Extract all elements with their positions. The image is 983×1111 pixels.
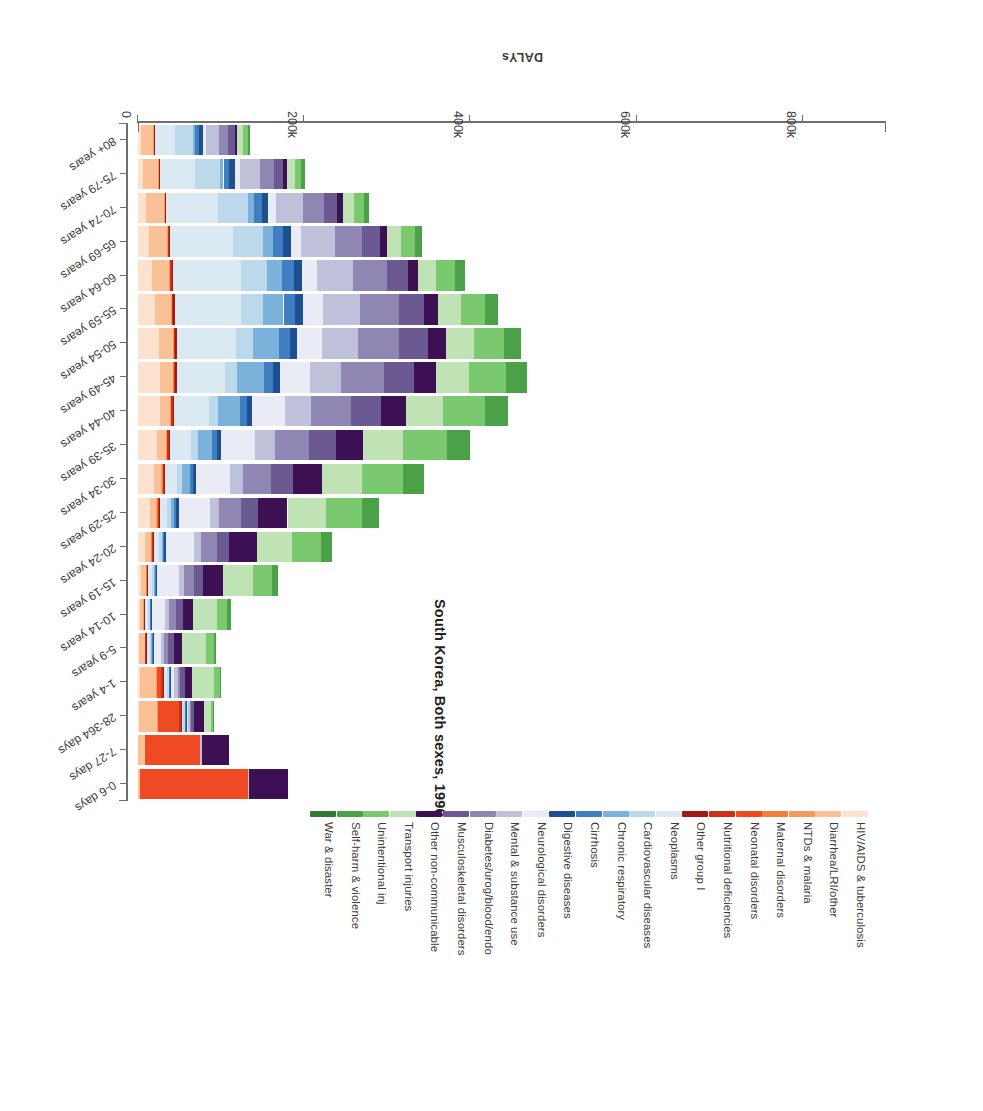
bar-segment[interactable] <box>273 226 283 257</box>
bar-segment[interactable] <box>182 464 189 495</box>
bar-segment[interactable] <box>219 498 241 529</box>
bar-row[interactable] <box>138 125 886 156</box>
bar-segment[interactable] <box>233 226 263 257</box>
bar-row[interactable] <box>138 667 886 698</box>
bar-segment[interactable] <box>177 328 237 359</box>
bar-segment[interactable] <box>283 226 290 257</box>
bar-segment[interactable] <box>268 193 275 224</box>
bar-segment[interactable] <box>185 667 192 698</box>
bar-row[interactable] <box>138 362 886 393</box>
bar-segment[interactable] <box>175 294 241 325</box>
bar-segment[interactable] <box>138 396 160 427</box>
bar-row[interactable] <box>138 532 886 563</box>
bar-segment[interactable] <box>184 565 195 596</box>
bar-segment[interactable] <box>138 294 155 325</box>
bar-segment[interactable] <box>293 464 322 495</box>
bar-segment[interactable] <box>203 565 223 596</box>
bar-segment[interactable] <box>303 193 324 224</box>
bar-row[interactable] <box>138 633 886 664</box>
bar-segment[interactable] <box>364 193 369 224</box>
bar-segment[interactable] <box>241 498 258 529</box>
bar-segment[interactable] <box>248 125 250 156</box>
bar-row[interactable] <box>138 735 886 766</box>
bar-segment[interactable] <box>173 260 241 291</box>
bar-segment[interactable] <box>143 159 159 190</box>
bar-segment[interactable] <box>223 565 253 596</box>
bar-row[interactable] <box>138 159 886 190</box>
bar-row[interactable] <box>138 565 886 596</box>
bar-row[interactable] <box>138 599 886 630</box>
bar-row[interactable] <box>138 464 886 495</box>
bar-segment[interactable] <box>195 159 220 190</box>
bar-segment[interactable] <box>198 430 212 461</box>
bar-segment[interactable] <box>469 362 506 393</box>
bar-segment[interactable] <box>324 193 337 224</box>
bar-segment[interactable] <box>175 125 193 156</box>
bar-segment[interactable] <box>485 396 508 427</box>
bar-segment[interactable] <box>301 226 334 257</box>
bar-segment[interactable] <box>219 125 228 156</box>
bar-segment[interactable] <box>297 328 322 359</box>
bar-segment[interactable] <box>303 294 323 325</box>
bar-segment[interactable] <box>138 430 157 461</box>
bar-segment[interactable] <box>160 498 167 529</box>
bar-segment[interactable] <box>428 328 445 359</box>
bar-segment[interactable] <box>194 532 201 563</box>
bar-row[interactable] <box>138 769 886 800</box>
bar-segment[interactable] <box>336 430 363 461</box>
bar-row[interactable] <box>138 701 886 732</box>
bar-segment[interactable] <box>287 159 295 190</box>
bar-segment[interactable] <box>157 565 179 596</box>
bar-segment[interactable] <box>182 633 207 664</box>
bar-segment[interactable] <box>436 362 469 393</box>
bar-segment[interactable] <box>267 260 282 291</box>
bar-row[interactable] <box>138 328 886 359</box>
bar-segment[interactable] <box>258 498 288 529</box>
bar-segment[interactable] <box>455 260 465 291</box>
bar-segment[interactable] <box>155 125 175 156</box>
bar-segment[interactable] <box>237 362 264 393</box>
bar-segment[interactable] <box>271 464 293 495</box>
bar-segment[interactable] <box>157 430 166 461</box>
bar-segment[interactable] <box>282 260 294 291</box>
bar-segment[interactable] <box>360 294 398 325</box>
bar-segment[interactable] <box>447 430 470 461</box>
bar-segment[interactable] <box>138 735 145 766</box>
bar-segment[interactable] <box>362 464 404 495</box>
bar-segment[interactable] <box>387 226 401 257</box>
bar-segment[interactable] <box>213 701 214 732</box>
bar-row[interactable] <box>138 430 886 461</box>
bar-segment[interactable] <box>149 226 167 257</box>
bar-segment[interactable] <box>210 498 219 529</box>
bar-segment[interactable] <box>139 701 157 732</box>
bar-segment[interactable] <box>461 294 485 325</box>
bar-segment[interactable] <box>363 430 403 461</box>
bar-segment[interactable] <box>263 294 284 325</box>
bar-segment[interactable] <box>177 362 225 393</box>
bar-segment[interactable] <box>506 362 527 393</box>
bar-segment[interactable] <box>504 328 521 359</box>
bar-segment[interactable] <box>170 430 192 461</box>
bar-row[interactable] <box>138 294 886 325</box>
bar-segment[interactable] <box>387 260 409 291</box>
bar-segment[interactable] <box>138 464 154 495</box>
bar-segment[interactable] <box>260 159 274 190</box>
bar-segment[interactable] <box>255 430 274 461</box>
bar-segment[interactable] <box>218 193 248 224</box>
bar-segment[interactable] <box>160 159 195 190</box>
bar-segment[interactable] <box>302 260 317 291</box>
bar-segment[interactable] <box>272 565 279 596</box>
bar-segment[interactable] <box>323 294 360 325</box>
bar-segment[interactable] <box>145 735 200 766</box>
bar-segment[interactable] <box>311 396 351 427</box>
bar-segment[interactable] <box>354 193 364 224</box>
bar-segment[interactable] <box>170 226 233 257</box>
bar-segment[interactable] <box>351 396 381 427</box>
bar-segment[interactable] <box>274 159 283 190</box>
bar-segment[interactable] <box>193 599 218 630</box>
bar-segment[interactable] <box>165 464 177 495</box>
bar-row[interactable] <box>138 226 886 257</box>
bar-segment[interactable] <box>322 328 358 359</box>
bar-segment[interactable] <box>214 633 216 664</box>
bar-segment[interactable] <box>220 667 221 698</box>
